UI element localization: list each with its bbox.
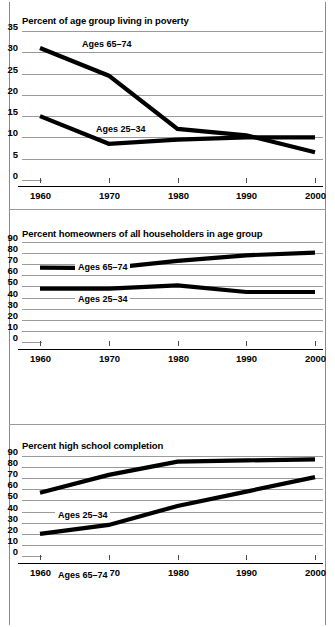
y-axis-tick-label: 15 [7,106,18,117]
y-axis-tick-label: 10 [7,535,18,546]
y-axis-tick-label: 70 [7,254,18,265]
y-axis-tick-label: 60 [7,265,18,276]
chart-svg-homeowners: 010203040506070809019601970198019902000A… [0,210,335,424]
series-label-ages-65-74: Ages 65–74 [58,570,108,580]
y-axis-tick-label: 0 [13,170,18,181]
y-axis-tick-label: 70 [7,468,18,479]
series-label-ages-65-74: Ages 65–74 [78,262,128,272]
chart-svg-education: 010203040506070809019601970198019902000A… [0,425,335,627]
x-axis-tick-label: 2000 [305,190,326,201]
series-label-ages-25-34: Ages 25–34 [96,124,146,134]
chart-panel-homeowners: Percent homeowners of all householders i… [0,210,335,424]
y-axis-tick-label: 60 [7,479,18,490]
x-axis-tick-label: 1990 [236,353,257,364]
y-axis-tick-label: 5 [13,149,19,160]
y-axis-tick-label: 20 [7,310,18,321]
y-axis-tick-label: 0 [13,332,18,343]
y-axis-tick-label: 40 [7,502,18,513]
y-axis-tick-label: 10 [7,321,18,332]
y-axis-tick-label: 10 [7,127,18,138]
series-label-ages-65-74: Ages 65–74 [82,39,132,49]
y-axis-tick-label: 0 [13,546,18,557]
figure-container: Percent of age group living in poverty 0… [0,0,335,627]
y-axis-tick-label: 25 [7,64,18,75]
x-axis-tick-label: 2000 [305,353,326,364]
plot-area-education: 010203040506070809019601970198019902000A… [0,425,335,627]
y-axis-tick-label: 20 [7,524,18,535]
y-axis-tick-label: 80 [7,457,18,468]
y-axis-tick-label: 80 [7,243,18,254]
plot-area-homeowners: 010203040506070809019601970198019902000A… [0,210,335,424]
x-axis-tick-label: 1980 [168,353,189,364]
x-axis-tick-label: 1980 [168,567,189,578]
chart-panel-education: Percent high school completion 010203040… [0,425,335,627]
series-line-ages-65-74 [40,477,315,534]
series-label-ages-25-34: Ages 25–34 [58,510,108,520]
x-axis-tick-label: 1990 [236,190,257,201]
y-axis-tick-label: 40 [7,288,18,299]
y-axis-tick-label: 30 [7,42,18,53]
series-label-ages-25-34: Ages 25–34 [78,294,128,304]
y-axis-tick-label: 90 [7,446,18,457]
y-axis-tick-label: 50 [7,490,18,501]
y-axis-tick-label: 20 [7,85,18,96]
x-axis-tick-label: 1990 [236,567,257,578]
x-axis-tick-label: 1960 [30,190,51,201]
x-axis-tick-label: 2000 [305,567,326,578]
chart-svg-poverty: 0510152025303519601970198019902000Ages 6… [0,0,335,209]
x-axis-tick-label: 1980 [168,190,189,201]
x-axis-tick-label: 1960 [30,353,51,364]
x-axis-tick-label: 1970 [99,353,120,364]
y-axis-tick-label: 90 [7,232,18,243]
y-axis-tick-label: 30 [7,299,18,310]
y-axis-tick-label: 30 [7,513,18,524]
chart-panel-poverty: Percent of age group living in poverty 0… [0,0,335,209]
y-axis-tick-label: 35 [7,21,18,32]
x-axis-tick-label: 1970 [99,190,120,201]
y-axis-tick-label: 50 [7,276,18,287]
x-axis-tick-label: 1960 [30,567,51,578]
plot-area-poverty: 0510152025303519601970198019902000Ages 6… [0,0,335,209]
